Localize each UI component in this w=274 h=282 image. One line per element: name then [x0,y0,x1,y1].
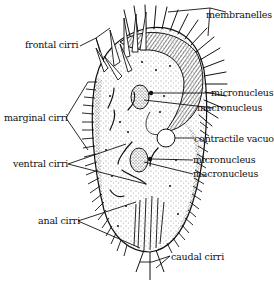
label-macronucleus-upper: macronucleus [197,102,262,113]
label-caudal-cirri: caudal cirri [171,251,224,262]
label-macronucleus-lower: macronucleus [193,168,258,179]
label-marginal-cirri: marginal cirri [4,112,68,123]
label-frontal-cirri: frontal cirri [25,39,78,50]
label-contractile-vacuole: contractile vacuole [194,133,274,144]
label-membranelles: membranelles [206,9,272,20]
label-micronucleus-lower: micronucleus [193,154,255,165]
contractile-vacuole-shape [157,129,175,147]
label-anal-cirri: anal cirri [38,215,80,226]
label-micronucleus-upper: micronucleus [211,87,273,98]
label-ventral-cirri: ventral cirri [13,158,68,169]
